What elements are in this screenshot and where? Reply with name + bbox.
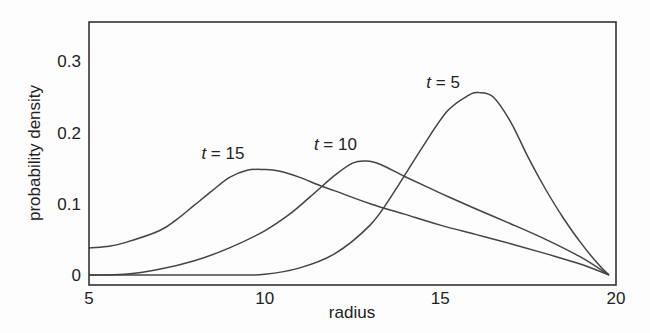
x-tick-label: 20 [607, 289, 626, 308]
y-tick-label: 0.3 [57, 52, 81, 71]
curve-t-5 [89, 92, 609, 275]
y-tick-label: 0 [72, 266, 81, 285]
curve-label: t = 15 [201, 144, 244, 163]
y-tick-label: 0.2 [57, 124, 81, 143]
x-tick-label: 5 [84, 289, 93, 308]
y-tick-label: 0.1 [57, 195, 81, 214]
curve-t-15 [89, 169, 609, 275]
y-tick-labels: 00.10.20.3 [57, 52, 81, 285]
curve-t-10 [89, 161, 609, 275]
y-axis-label: probability density [25, 84, 44, 221]
chart: 5101520 00.10.20.3 radius probability de… [0, 0, 650, 333]
curve-label: t = 5 [426, 73, 460, 92]
x-tick-label: 15 [431, 289, 450, 308]
curve-label: t = 10 [314, 135, 357, 154]
plot-area [89, 92, 609, 275]
x-tick-label: 10 [255, 289, 274, 308]
x-axis-label: radius [329, 303, 375, 322]
